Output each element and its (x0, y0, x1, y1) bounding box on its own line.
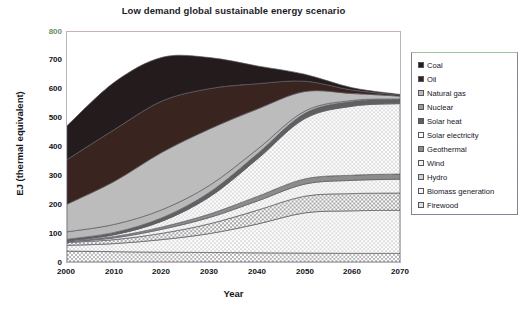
legend-swatch-icon (418, 202, 424, 208)
legend-item-firewood[interactable]: Firewood (418, 198, 517, 212)
y-tick-100: 100 (28, 229, 62, 238)
legend-swatch-icon (418, 90, 424, 96)
legend-swatch-icon (418, 160, 424, 166)
legend-label: Wind (427, 159, 444, 168)
legend-swatch-icon (418, 146, 424, 152)
legend-swatch-icon (418, 62, 424, 68)
legend-label: Solar electricity (427, 131, 478, 140)
y-tick-800: 800 (28, 27, 62, 36)
legend-label: Coal (427, 61, 443, 70)
x-tick-2060: 2060 (330, 267, 374, 276)
legend-label: Solar heat (427, 117, 462, 126)
legend-swatch-icon (418, 118, 424, 124)
chart-title: Low demand global sustainable energy sce… (66, 5, 401, 16)
legend-item-solar-heat[interactable]: Solar heat (418, 114, 517, 128)
legend-label: Natural gas (427, 89, 466, 98)
legend-item-hydro[interactable]: Hydro (418, 170, 517, 184)
x-axis-title: Year (66, 288, 401, 299)
legend-label: Geothermal (427, 145, 467, 154)
x-tick-2070: 2070 (378, 267, 422, 276)
legend-item-biomass-generation[interactable]: Biomass generation (418, 184, 517, 198)
y-tick-0: 0 (28, 258, 62, 267)
x-tick-2050: 2050 (283, 267, 327, 276)
chart-legend: Coal Oil Natural gas Nuclear Solar heat … (411, 52, 518, 215)
x-tick-2010: 2010 (92, 267, 136, 276)
legend-label: Firewood (427, 201, 458, 210)
plot-area (66, 31, 401, 263)
y-tick-600: 600 (28, 84, 62, 93)
y-tick-300: 300 (28, 171, 62, 180)
y-tick-400: 400 (28, 142, 62, 151)
legend-swatch-icon (418, 174, 424, 180)
chart-container: Low demand global sustainable energy sce… (0, 0, 526, 316)
x-tick-2040: 2040 (235, 267, 279, 276)
x-tick-2030: 2030 (187, 267, 231, 276)
legend-swatch-icon (418, 132, 424, 138)
y-tick-700: 700 (28, 55, 62, 64)
legend-item-geothermal[interactable]: Geothermal (418, 142, 517, 156)
x-tick-2000: 2000 (44, 267, 88, 276)
legend-label: Hydro (427, 173, 447, 182)
x-tick-2020: 2020 (139, 267, 183, 276)
legend-item-oil[interactable]: Oil (418, 72, 517, 86)
y-tick-200: 200 (28, 200, 62, 209)
legend-item-solar-electricity[interactable]: Solar electricity (418, 128, 517, 142)
legend-label: Oil (427, 75, 436, 84)
legend-label: Nuclear (427, 103, 453, 112)
legend-item-coal[interactable]: Coal (418, 58, 517, 72)
stacked-area-plot (67, 32, 400, 262)
legend-item-nuclear[interactable]: Nuclear (418, 100, 517, 114)
legend-item-wind[interactable]: Wind (418, 156, 517, 170)
y-tick-500: 500 (28, 113, 62, 122)
legend-swatch-icon (418, 188, 424, 194)
y-axis-title: EJ (thermal equivalent) (14, 59, 25, 229)
legend-swatch-icon (418, 76, 424, 82)
legend-item-natural-gas[interactable]: Natural gas (418, 86, 517, 100)
legend-swatch-icon (418, 104, 424, 110)
legend-label: Biomass generation (427, 187, 494, 196)
